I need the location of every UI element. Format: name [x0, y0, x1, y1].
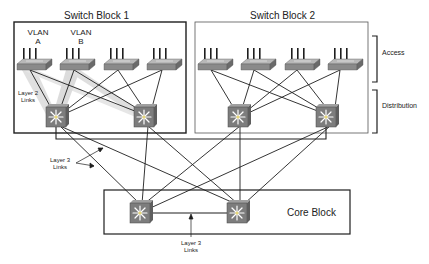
arrow-icon	[76, 148, 193, 237]
switch-block-2-box	[195, 22, 368, 133]
access-tier-label: Access	[382, 49, 405, 56]
distribution-switch	[228, 104, 251, 127]
core-switch	[227, 200, 250, 223]
distribution-tier-label: Distribution	[382, 102, 417, 109]
access-switch	[285, 48, 320, 70]
access-switch	[104, 48, 139, 70]
distribution-bracket	[372, 90, 377, 133]
access-switch	[328, 48, 363, 70]
access-switch	[241, 48, 276, 70]
distribution-switch	[46, 104, 69, 127]
vlan-a-label: VLAN A	[27, 28, 49, 46]
network-diagram	[0, 0, 429, 264]
distribution-switch	[316, 104, 339, 127]
distribution-interconnect	[56, 125, 326, 139]
core-block-title: Core Block	[287, 207, 336, 218]
switch-block-2-title: Switch Block 2	[250, 10, 315, 21]
access-switch	[147, 48, 182, 70]
layer2-links-label: Layer 2 Links	[15, 90, 41, 104]
core-layer3-links-label: Layer 3 Links	[178, 240, 204, 254]
access-switch	[17, 48, 52, 70]
access-switch	[60, 48, 95, 70]
distribution-switch	[134, 104, 157, 127]
access-switch	[198, 48, 233, 70]
vlan-b-label: VLAN B	[70, 28, 92, 46]
access-bracket	[372, 36, 377, 82]
switch-block-1-title: Switch Block 1	[64, 10, 129, 21]
layer3-links-label: Layer 3 Links	[47, 157, 73, 171]
core-switch	[130, 200, 153, 223]
